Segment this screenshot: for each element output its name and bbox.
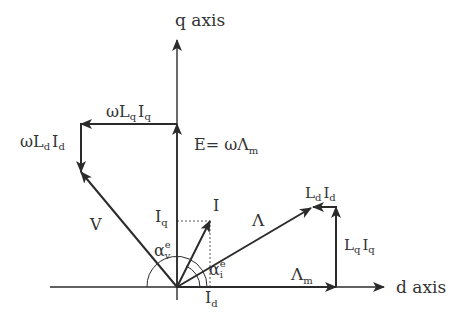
phasor-diagram: q axis d axis ωLqIq ωLdId E= ωΛm V I Iq … xyxy=(0,0,472,325)
lq-iq-label: LqIq xyxy=(344,236,375,255)
q-axis-label: q axis xyxy=(175,10,225,30)
flux-label: Λ xyxy=(251,210,265,230)
iq-label: Iq xyxy=(155,207,168,228)
id-label: Id xyxy=(205,288,218,309)
alpha-i-label: αei xyxy=(209,258,226,280)
voltage-label: V xyxy=(89,215,102,234)
ld-id-label: LdId xyxy=(305,184,336,203)
emf-label: E= ωΛm xyxy=(194,135,259,156)
omega-lq-iq-label: ωLqIq xyxy=(106,102,151,122)
current-label: I xyxy=(213,196,219,215)
alpha-v-label: αev xyxy=(154,239,171,261)
flux-m-label: Λm xyxy=(290,264,313,286)
alpha-v-arc xyxy=(147,264,157,287)
omega-ld-id-label: ωLdId xyxy=(20,132,65,152)
d-axis-label: d axis xyxy=(396,277,446,297)
